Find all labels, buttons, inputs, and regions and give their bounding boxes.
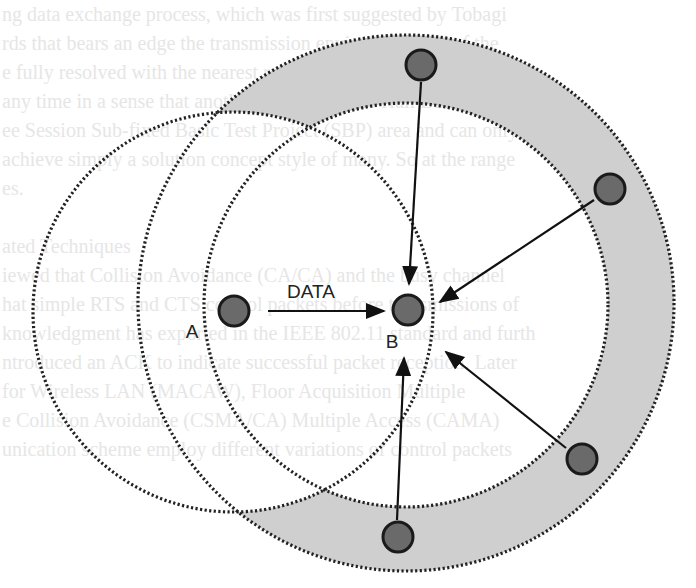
node-right-icon [595, 174, 625, 204]
node-top-icon [406, 50, 436, 80]
node-a-icon [219, 296, 249, 326]
node-b-icon [393, 295, 423, 325]
node-bottom-icon [383, 522, 413, 552]
node-b-label: B [386, 331, 399, 352]
data-label: DATA [287, 281, 335, 302]
node-lower-right-icon [567, 444, 597, 474]
node-a-label: A [186, 321, 199, 342]
network-range-diagram: DATA A B [0, 0, 696, 588]
